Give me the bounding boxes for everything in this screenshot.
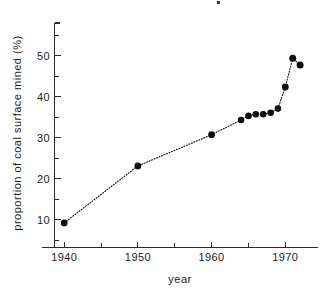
data-point	[245, 113, 252, 120]
y-axis-title: proportion of coal surface mined (%)	[11, 35, 23, 230]
data-point	[275, 105, 282, 112]
x-tick-label: 1960	[199, 251, 225, 263]
y-axis-tick-labels: 10 20 30 40 50	[37, 50, 50, 226]
x-tick-label: 1940	[51, 251, 77, 263]
data-point	[289, 55, 296, 62]
data-point	[238, 117, 245, 124]
y-tick-label: 30	[37, 132, 50, 144]
data-point	[297, 62, 304, 69]
data-point	[61, 220, 68, 227]
data-point	[282, 84, 289, 91]
chart-figure: 10 20 30 40 50 1940 1950 1960 1970 year …	[0, 0, 326, 291]
x-axis-title: year	[168, 273, 191, 285]
y-axis-major-ticks	[55, 56, 61, 220]
x-axis-minor-ticks	[101, 243, 249, 248]
data-point	[208, 131, 215, 138]
data-point-markers	[61, 55, 304, 227]
data-point	[260, 111, 267, 118]
x-tick-label: 1970	[272, 251, 298, 263]
data-point	[253, 111, 260, 118]
y-tick-label: 20	[37, 173, 50, 185]
y-tick-label: 10	[37, 214, 50, 226]
x-axis-tick-labels: 1940 1950 1960 1970	[51, 251, 298, 263]
scan-speck	[217, 1, 220, 4]
x-tick-label: 1950	[125, 251, 151, 263]
data-point	[267, 109, 274, 116]
y-tick-label: 40	[37, 91, 50, 103]
data-point	[135, 163, 142, 170]
data-series-line	[64, 58, 300, 223]
y-tick-label: 50	[37, 50, 50, 62]
line-chart-plot: 10 20 30 40 50 1940 1950 1960 1970 year …	[0, 0, 326, 291]
